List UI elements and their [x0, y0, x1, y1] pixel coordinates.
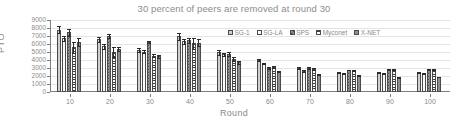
bar [267, 68, 271, 92]
x-tick-label: 30 [146, 98, 154, 105]
error-bar-cap [107, 34, 111, 35]
error-bar-cap [272, 66, 276, 67]
x-tick-label: 50 [226, 98, 234, 105]
error-bar-cap [197, 46, 201, 47]
x-tick-label: 60 [266, 98, 274, 105]
error-bar [193, 38, 194, 49]
error-bar-cap [387, 70, 391, 71]
error-bar-cap [377, 73, 381, 74]
bar [297, 68, 301, 92]
error-bar-cap [157, 55, 161, 56]
x-tick-mark [310, 94, 311, 97]
x-tick-label: 90 [386, 98, 394, 105]
bar [272, 67, 276, 92]
bar [357, 75, 361, 92]
legend-swatch-icon [316, 30, 321, 35]
error-bar-cap [152, 54, 156, 55]
bar [157, 56, 161, 92]
bar [102, 46, 106, 92]
bar-group [410, 20, 450, 92]
bar [217, 52, 221, 92]
error-bar-cap [257, 59, 261, 60]
y-tick-label: 3000 [32, 65, 46, 72]
error-bar-cap [197, 39, 201, 40]
error-bar-cap [192, 38, 196, 39]
y-tick-label: 4000 [32, 57, 46, 64]
error-bar-cap [272, 68, 276, 69]
error-bar-cap [187, 43, 191, 44]
x-tick-mark [430, 94, 431, 97]
error-bar-cap [97, 42, 101, 43]
bar [62, 38, 66, 92]
x-tick-mark [150, 94, 151, 97]
bar [77, 42, 81, 92]
bar [147, 42, 151, 92]
bar [377, 73, 381, 92]
x-axis-ticks: 102030405060708090100 [50, 94, 450, 106]
error-bar-cap [142, 53, 146, 54]
legend-label: Myconet [323, 29, 348, 36]
legend-item[interactable]: X-NET [354, 29, 380, 36]
error-bar-cap [277, 72, 281, 73]
error-bar-cap [357, 76, 361, 77]
bar [67, 32, 71, 92]
x-tick-mark [350, 94, 351, 97]
x-tick-label: 100 [424, 98, 436, 105]
error-bar-cap [392, 70, 396, 71]
error-bar-cap [147, 43, 151, 44]
error-bar-cap [427, 70, 431, 71]
y-tick-label: 7000 [32, 33, 46, 40]
bar [302, 71, 306, 92]
y-tick-label: 8000 [32, 25, 46, 32]
legend-swatch-icon [228, 30, 233, 35]
legend-swatch-icon [354, 30, 359, 35]
bar [227, 54, 231, 92]
x-tick-mark [230, 94, 231, 97]
error-bar-cap [72, 42, 76, 43]
legend-item[interactable]: SG-LA [257, 29, 283, 36]
bar [192, 43, 196, 92]
y-tick-label: 9000 [32, 17, 46, 24]
error-bar-cap [217, 55, 221, 56]
error-bar-cap [382, 74, 386, 75]
error-bar-cap [232, 57, 236, 58]
bar [152, 56, 156, 92]
error-bar [73, 42, 74, 53]
bar [307, 68, 311, 92]
error-bar-cap [342, 74, 346, 75]
legend-swatch-icon [290, 30, 295, 35]
error-bar-cap [347, 70, 351, 71]
error-bar-cap [437, 77, 441, 78]
error-bar-cap [217, 50, 221, 51]
error-bar-cap [77, 38, 81, 39]
legend-item[interactable]: SPS [290, 29, 310, 36]
error-bar-cap [57, 33, 61, 34]
bar [197, 43, 201, 92]
legend-item[interactable]: Myconet [316, 29, 347, 36]
error-bar-cap [237, 61, 241, 62]
error-bar-cap [62, 41, 66, 42]
legend-label: SG-1 [235, 29, 250, 36]
error-bar-cap [152, 57, 156, 58]
error-bar-cap [237, 64, 241, 65]
y-tick-mark [47, 92, 50, 93]
error-bar [78, 38, 79, 46]
error-bar-cap [137, 48, 141, 49]
error-bar-cap [352, 71, 356, 72]
error-bar-cap [117, 51, 121, 52]
x-tick-mark [110, 94, 111, 97]
bar [117, 49, 121, 92]
bar [277, 72, 281, 92]
bar [262, 64, 266, 92]
bar [387, 70, 391, 92]
error-bar-cap [177, 40, 181, 41]
bar [432, 70, 436, 92]
error-bar-cap [102, 44, 106, 45]
error-bar-cap [147, 41, 151, 42]
legend-label: SG-LA [263, 29, 283, 36]
error-bar-cap [187, 38, 191, 39]
bar [72, 47, 76, 92]
error-bar-cap [417, 73, 421, 74]
legend-item[interactable]: SG-1 [228, 29, 250, 36]
error-bar [179, 33, 180, 40]
